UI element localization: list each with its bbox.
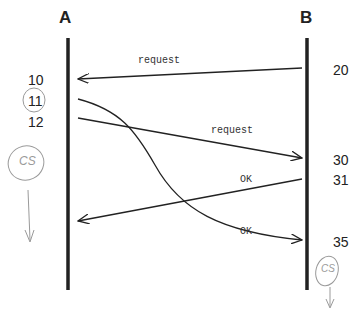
node-b-label: B	[300, 8, 312, 28]
cs-annotation-b: CS	[321, 263, 335, 274]
message-label-ok-2: OK	[240, 226, 252, 237]
b-time-35: 35	[333, 234, 349, 250]
sequence-diagram	[0, 0, 357, 311]
message-label-ok-1: OK	[240, 174, 252, 185]
message-request-a-to-b	[78, 118, 302, 158]
a-time-11: 11	[28, 93, 43, 109]
b-time-31: 31	[333, 172, 349, 188]
b-time-30: 30	[333, 152, 349, 168]
message-ok-b-to-a	[78, 179, 302, 221]
message-label-request-2: request	[211, 125, 253, 136]
message-ok-a-to-b	[78, 99, 302, 240]
a-time-12: 12	[28, 114, 44, 130]
message-label-request-1: request	[138, 55, 180, 66]
node-a-label: A	[59, 8, 71, 28]
message-request-b-to-a	[78, 68, 302, 79]
down-arrow-a	[28, 190, 30, 240]
a-time-10: 10	[28, 72, 44, 88]
cs-annotation-a: CS	[19, 154, 36, 168]
b-time-20: 20	[333, 62, 349, 78]
